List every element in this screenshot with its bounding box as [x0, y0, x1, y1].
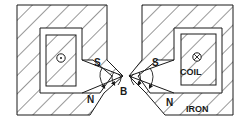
iron-label: IRON — [186, 104, 209, 114]
left-south-label: S — [94, 57, 101, 68]
magnet-diagram: S N S N B COIL IRON — [0, 0, 250, 126]
coil-label: COIL — [180, 67, 202, 77]
field-b-label: B — [120, 86, 127, 97]
right-magnet — [129, 5, 233, 115]
left-north-label: N — [87, 94, 94, 105]
right-north-label: N — [166, 97, 173, 108]
left-magnet — [17, 5, 123, 115]
right-south-label: S — [152, 57, 159, 68]
